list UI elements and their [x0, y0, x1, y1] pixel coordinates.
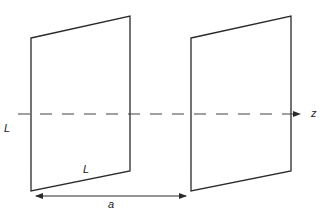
separation-label: a	[108, 199, 114, 210]
plates-diagram: L L a z	[0, 0, 334, 216]
z-axis-label: z	[311, 108, 317, 119]
right-plate	[191, 16, 291, 191]
side-width-label: L	[83, 164, 89, 175]
side-height-label: L	[4, 123, 10, 134]
diagram-canvas	[0, 0, 334, 216]
left-plate	[31, 16, 130, 191]
